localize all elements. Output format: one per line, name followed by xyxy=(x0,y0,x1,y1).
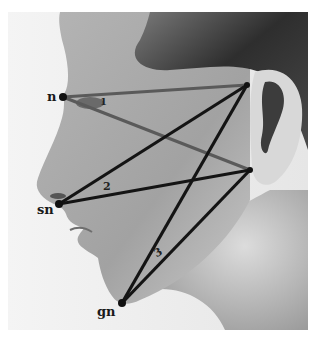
face-profile-figure: n sn gn 1 2 3 xyxy=(0,0,320,341)
label-sn: sn xyxy=(37,202,54,217)
landmark-gn-dot xyxy=(118,299,126,307)
label-gn: gn xyxy=(97,304,116,319)
angle-label-2: 2 xyxy=(103,180,111,193)
landmark-ear-lower-dot xyxy=(247,167,253,173)
landmark-ear-upper-dot xyxy=(244,82,250,88)
landmark-sn-dot xyxy=(55,200,63,208)
figure-canvas: n sn gn 1 2 3 xyxy=(0,0,320,341)
nostril xyxy=(50,193,66,199)
label-n: n xyxy=(47,89,57,104)
landmark-n-dot xyxy=(59,93,67,101)
angle-label-1: 1 xyxy=(100,96,107,107)
